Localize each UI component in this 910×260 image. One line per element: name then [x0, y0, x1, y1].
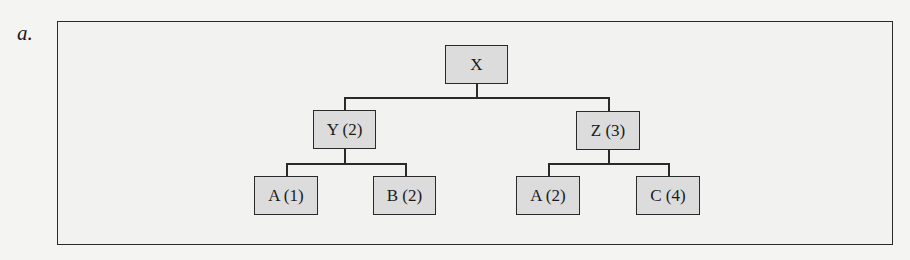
tree-node-root: X: [445, 45, 508, 84]
connector: [548, 163, 669, 165]
connector: [344, 97, 346, 110]
connector: [344, 97, 609, 99]
connector: [668, 163, 670, 176]
connector: [405, 163, 407, 176]
connector: [286, 163, 406, 165]
connector: [608, 97, 610, 111]
tree-node-c4: C (4): [636, 176, 700, 215]
connector: [476, 84, 478, 97]
tree-node-b2: B (2): [373, 176, 436, 215]
tree-node-a2: A (2): [516, 176, 580, 215]
connector: [286, 163, 288, 176]
tree-node-a1: A (1): [254, 176, 318, 215]
tree-node-y: Y (2): [313, 110, 376, 149]
connector: [548, 163, 550, 176]
connector: [344, 149, 346, 163]
figure-label: a.: [17, 21, 33, 46]
connector: [608, 150, 610, 163]
tree-node-z: Z (3): [576, 111, 640, 150]
